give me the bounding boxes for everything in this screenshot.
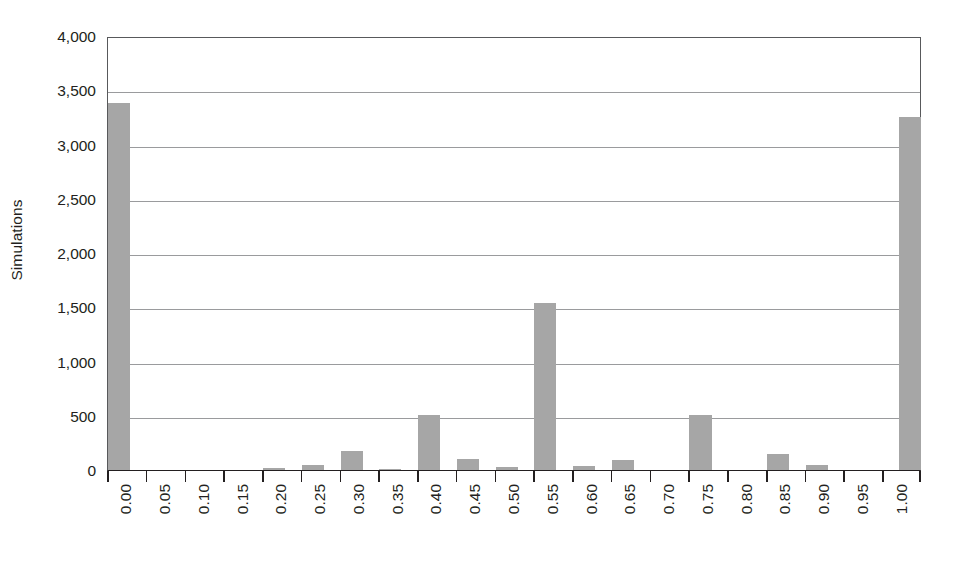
x-axis-tick (185, 471, 187, 482)
x-axis-tick-label: 0.60 (582, 484, 602, 564)
bar (899, 117, 921, 470)
x-axis-tick (262, 471, 264, 482)
bar (534, 303, 556, 470)
x-axis-tick-label: 0.15 (233, 484, 253, 564)
x-axis-tick (843, 471, 845, 482)
x-axis-tick-label: 0.65 (620, 484, 640, 564)
x-axis-ticks (107, 471, 921, 482)
x-axis-tick (223, 471, 225, 482)
y-axis-tick-label: 1,500 (57, 299, 96, 317)
y-axis-tick-label: 2,500 (57, 191, 96, 209)
x-axis-tick (727, 471, 729, 482)
x-axis-tick (378, 471, 380, 482)
plot-area (107, 37, 921, 471)
bar (263, 468, 285, 470)
x-axis-tick-label: 0.90 (814, 484, 834, 564)
y-axis-tick-label: 3,500 (57, 82, 96, 100)
x-axis-tick-label: 0.55 (543, 484, 563, 564)
x-axis-tick-label: 0.25 (310, 484, 330, 564)
x-axis-tick-label: 0.30 (349, 484, 369, 564)
bar (418, 415, 440, 470)
bars-layer (108, 38, 920, 470)
y-axis-tick-label: 2,000 (57, 245, 96, 263)
x-axis-tick (919, 471, 921, 482)
bar (457, 459, 479, 470)
x-axis-tick (805, 471, 807, 482)
bar (496, 467, 518, 470)
x-axis-tick (146, 471, 148, 482)
y-axis-title: Simulations (2, 0, 32, 480)
x-axis-tick-label: 0.75 (698, 484, 718, 564)
bar (612, 460, 634, 470)
y-axis-tick-label: 3,000 (57, 137, 96, 155)
y-axis-tick-label: 0 (87, 462, 96, 480)
x-axis-tick (417, 471, 419, 482)
x-axis-tick-labels: 0.000.050.100.150.200.250.300.350.400.45… (107, 484, 921, 564)
x-axis-tick (301, 471, 303, 482)
x-axis-tick (456, 471, 458, 482)
bar-chart: Simulations 05001,0001,5002,0002,5003,00… (0, 0, 961, 571)
y-axis-tick-labels: 05001,0001,5002,0002,5003,0003,5004,000 (30, 37, 100, 471)
x-axis-tick (533, 471, 535, 482)
x-axis-tick (766, 471, 768, 482)
x-axis-tick-label: 0.80 (737, 484, 757, 564)
x-axis-tick-label: 0.10 (194, 484, 214, 564)
x-axis-tick-label: 0.35 (388, 484, 408, 564)
x-axis-tick-label: 0.85 (775, 484, 795, 564)
x-axis-tick-label: 0.40 (426, 484, 446, 564)
y-axis-tick-label: 4,000 (57, 28, 96, 46)
x-axis-tick-label: 0.50 (504, 484, 524, 564)
bar (767, 454, 789, 470)
bar (689, 415, 711, 470)
x-axis-tick-label: 0.00 (116, 484, 136, 564)
x-axis-tick-label: 0.20 (271, 484, 291, 564)
x-axis-tick (495, 471, 497, 482)
x-axis-tick (107, 471, 109, 482)
x-axis-tick-label: 0.45 (465, 484, 485, 564)
x-axis-tick-label: 0.05 (155, 484, 175, 564)
bar (302, 465, 324, 470)
x-axis-tick-label: 0.70 (659, 484, 679, 564)
x-axis-tick (611, 471, 613, 482)
x-axis-tick-label: 0.95 (853, 484, 873, 564)
bar (108, 103, 130, 470)
bar (806, 465, 828, 470)
x-axis-tick (650, 471, 652, 482)
bar (573, 466, 595, 470)
x-axis-tick (340, 471, 342, 482)
bar (341, 451, 363, 470)
x-axis-tick-label: 1.00 (892, 484, 912, 564)
x-axis-tick (688, 471, 690, 482)
x-axis-tick (572, 471, 574, 482)
bar (379, 469, 401, 470)
x-axis-tick (882, 471, 884, 482)
y-axis-tick-label: 1,000 (57, 354, 96, 372)
y-axis-tick-label: 500 (70, 408, 96, 426)
y-axis-title-label: Simulations (8, 199, 26, 280)
